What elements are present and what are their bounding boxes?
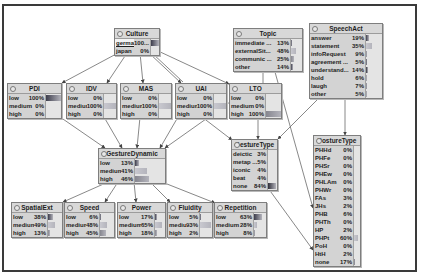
node-title[interactable]: Topic (234, 29, 302, 39)
state-label[interactable]: PoH (314, 242, 343, 250)
node-idv[interactable]: IDVlow0%medium100%high0% (66, 83, 117, 119)
state-row[interactable]: medium100% (121, 102, 171, 110)
state-row[interactable]: high0% (67, 110, 116, 118)
state-label[interactable]: low (215, 213, 240, 221)
node-select-radio-icon[interactable] (236, 31, 242, 37)
state-row[interactable]: japan0% (115, 47, 159, 55)
state-label[interactable]: high (8, 110, 35, 118)
node-select-radio-icon[interactable] (67, 205, 73, 211)
state-label[interactable]: medium (8, 102, 35, 110)
state-label[interactable]: iconic (232, 166, 257, 174)
state-row[interactable]: high0% (8, 110, 61, 118)
state-label[interactable]: PHLAm (314, 178, 343, 186)
node-title[interactable]: PDI (8, 84, 61, 94)
state-row[interactable]: low6% (65, 213, 114, 221)
state-label[interactable]: PHFe (314, 154, 343, 162)
state-label[interactable]: medium (168, 221, 186, 229)
state-row[interactable]: german100... (115, 39, 159, 47)
node-select-radio-icon[interactable] (10, 86, 16, 92)
node-select-radio-icon[interactable] (232, 86, 238, 92)
state-label[interactable]: PHSr (314, 162, 343, 170)
node-title[interactable]: SpatialExt (12, 203, 62, 213)
state-row[interactable]: hold6% (310, 74, 382, 82)
state-row[interactable]: answer19% (310, 34, 382, 42)
state-row[interactable]: PHWr0% (314, 186, 360, 194)
state-label[interactable]: other (234, 63, 277, 71)
state-label[interactable]: deictic (232, 150, 257, 158)
state-row[interactable]: iconic4% (232, 166, 277, 174)
state-row[interactable]: medium48% (65, 221, 114, 229)
state-row[interactable]: low0% (230, 94, 281, 102)
state-label[interactable]: high (65, 229, 86, 237)
state-row[interactable]: metap ...5% (232, 158, 277, 166)
state-label[interactable]: medium (99, 167, 121, 175)
state-row[interactable]: medium49% (12, 221, 62, 229)
state-row[interactable]: beat4% (232, 174, 277, 182)
state-row[interactable]: medium93% (168, 221, 212, 229)
state-label[interactable]: low (65, 213, 89, 221)
state-label[interactable]: communic ... (234, 55, 277, 63)
state-label[interactable]: japan (115, 47, 140, 55)
state-label[interactable]: medium (12, 221, 34, 229)
state-row[interactable]: PHLAm0% (314, 178, 360, 186)
node-pdi[interactable]: PDIlow100%medium0%high0% (7, 83, 62, 119)
state-label[interactable]: low (8, 94, 29, 102)
state-row[interactable]: medium100% (67, 102, 116, 110)
state-label[interactable]: medium (230, 102, 255, 110)
state-row[interactable]: low63% (215, 213, 266, 221)
node-title[interactable]: Power (118, 203, 165, 213)
state-label[interactable]: beat (232, 174, 257, 182)
state-row[interactable]: deictic3% (232, 150, 277, 158)
state-row[interactable]: medium41% (99, 167, 165, 175)
state-label[interactable]: high (176, 110, 203, 118)
state-row[interactable]: low0% (121, 94, 171, 102)
node-title[interactable]: LTO (230, 84, 281, 94)
node-repetition[interactable]: Repetitionlow63%medium28%high8% (214, 202, 267, 238)
state-row[interactable]: low5% (168, 213, 212, 221)
state-row[interactable]: high0% (176, 110, 226, 118)
state-label[interactable]: high (67, 110, 93, 118)
state-label[interactable]: agreement ... (310, 58, 355, 66)
state-label[interactable]: low (230, 94, 255, 102)
node-lto[interactable]: LTOlow0%medium0%high100% (229, 83, 282, 119)
node-title[interactable]: Fluidity (168, 203, 212, 213)
node-select-radio-icon[interactable] (117, 31, 123, 37)
state-row[interactable]: PHSr0% (314, 162, 360, 170)
state-label[interactable]: PHEw (314, 170, 343, 178)
node-select-radio-icon[interactable] (120, 205, 126, 211)
node-select-radio-icon[interactable] (234, 142, 240, 148)
node-gesturetype[interactable]: GestureTypedeictic3%metap ...5%iconic4%b… (231, 139, 278, 191)
state-row[interactable]: other5% (310, 90, 382, 98)
state-label[interactable]: medium (67, 102, 87, 110)
state-row[interactable]: PoH0% (314, 242, 360, 250)
state-label[interactable]: HP (314, 226, 343, 234)
state-row[interactable]: medium100% (176, 102, 226, 110)
state-label[interactable]: medium (121, 102, 142, 110)
state-label[interactable]: medium (215, 221, 240, 229)
state-row[interactable]: medium28% (215, 221, 266, 229)
node-culture[interactable]: Culturegerman100...japan0% (114, 28, 160, 56)
state-row[interactable]: HP2% (314, 226, 360, 234)
node-fluidity[interactable]: Fluiditylow5%medium93%high2% (167, 202, 213, 238)
node-title[interactable]: Repetition (215, 203, 266, 213)
state-row[interactable]: low38% (12, 213, 62, 221)
node-topic[interactable]: Topicimmediate ...13%externalSit...48%co… (233, 28, 303, 72)
state-row[interactable]: laugh7% (310, 82, 382, 90)
state-label[interactable]: medium (65, 221, 86, 229)
state-label[interactable]: FAs (314, 194, 343, 202)
state-label[interactable]: high (99, 175, 121, 183)
state-label[interactable]: low (12, 213, 34, 221)
state-label[interactable]: high (215, 229, 243, 237)
state-row[interactable]: medium0% (230, 102, 281, 110)
state-label[interactable]: immediate ... (234, 39, 277, 47)
state-label[interactable]: PHWr (314, 186, 343, 194)
node-select-radio-icon[interactable] (69, 86, 75, 92)
state-label[interactable]: understand... (310, 66, 352, 74)
node-gesturedynamic[interactable]: GestureDynamiclow13%medium41%high46% (98, 148, 166, 184)
node-title[interactable]: IDV (67, 84, 116, 94)
state-label[interactable]: infoRequest (310, 50, 355, 58)
node-speed[interactable]: Speedlow6%medium48%high45% (64, 202, 115, 238)
state-label[interactable]: other (310, 90, 355, 98)
node-title[interactable]: UAI (176, 84, 226, 94)
state-label[interactable]: none (232, 182, 254, 190)
